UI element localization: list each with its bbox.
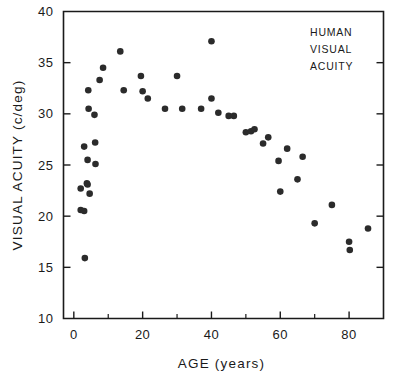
data-point [198,105,205,112]
data-point [174,73,181,80]
plot-frame [64,12,384,319]
data-point [117,48,124,55]
data-point [100,64,107,71]
data-point [92,139,99,146]
data-point [84,181,91,188]
data-point [138,73,145,80]
data-point [120,87,127,94]
y-tick-label-10: 10 [38,311,53,326]
data-point [260,140,267,147]
data-point [231,113,238,120]
x-tick-label-60: 60 [273,327,288,342]
x-tick-label-20: 20 [135,327,150,342]
data-point [85,105,92,112]
y-tick-label-20: 20 [38,209,53,224]
y-tick-label-15: 15 [38,260,53,275]
y-tick-label-35: 35 [38,55,53,70]
y-tick-label-40: 40 [38,4,53,19]
data-point [139,88,146,95]
y-tick-label-30: 30 [38,106,53,121]
data-point [162,105,169,112]
annotation-line-3: ACUITY [310,60,353,72]
data-point [92,161,99,168]
data-point [294,176,301,183]
data-point [91,112,98,119]
data-point [96,77,103,84]
scatter-plot-figure: 10152025303540020406080HUMANVISUALACUITY… [0,0,395,386]
data-point [277,188,284,195]
visual-acuity-scatter-chart: 10152025303540020406080HUMANVISUALACUITY… [0,0,395,386]
data-point [251,126,258,133]
data-point [346,238,353,245]
data-point [145,95,152,102]
x-axis-title: AGE (years) [178,356,265,371]
data-point [77,185,84,192]
x-tick-label-0: 0 [70,327,78,342]
data-point [208,38,215,45]
data-point [275,158,282,165]
data-point [215,110,222,117]
data-point [82,255,89,262]
annotation-line-1: HUMAN [310,26,353,38]
x-tick-label-80: 80 [341,327,356,342]
data-point [179,105,186,112]
data-point [265,134,272,141]
data-point [84,157,91,164]
data-point [284,145,291,152]
data-point [81,208,88,215]
data-point [86,190,93,197]
data-point [365,225,372,232]
data-point [208,95,215,102]
data-point [346,247,353,254]
y-axis-title: VISUAL ACUITY (c/deg) [10,80,25,251]
y-tick-label-25: 25 [38,158,53,173]
data-point [81,143,88,150]
data-point [299,154,306,161]
data-point [311,220,318,227]
data-point [329,202,336,209]
x-tick-label-40: 40 [204,327,219,342]
annotation-line-2: VISUAL [310,43,352,55]
data-point [85,87,92,94]
